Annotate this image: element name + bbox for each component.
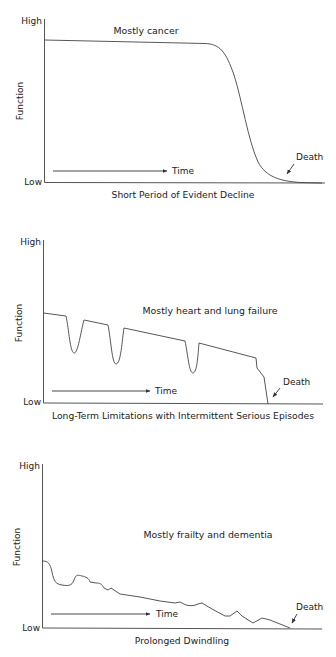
time-label: Time [154, 386, 177, 396]
chart-frailty-dementia: High Low Function Mostly frailty and dem… [12, 461, 323, 646]
death-arrow [287, 164, 294, 174]
y-tick-low: Low [22, 623, 40, 633]
chart-heart-lung: High Low Function Mostly heart and lung … [14, 237, 323, 421]
y-axis-label: Function [15, 82, 25, 120]
death-label: Death [296, 152, 323, 162]
chart-title: Mostly frailty and dementia [143, 529, 272, 540]
time-label: Time [171, 166, 194, 176]
death-arrow [292, 614, 297, 623]
chart-caption: Prolonged Dwindling [135, 635, 229, 646]
axes [45, 19, 326, 183]
chart-title: Mostly cancer [113, 25, 178, 36]
chart-title: Mostly heart and lung failure [142, 305, 277, 316]
time-label: Time [155, 609, 178, 619]
y-tick-low: Low [23, 397, 41, 407]
y-axis-label: Function [12, 528, 22, 566]
axes [43, 464, 323, 629]
y-tick-low: Low [24, 177, 42, 187]
death-label: Death [296, 602, 323, 612]
death-arrow [273, 388, 280, 397]
y-tick-high: High [19, 461, 40, 471]
function-curve [45, 40, 323, 183]
y-tick-high: High [21, 16, 42, 26]
y-axis-label: Function [14, 304, 24, 342]
death-label: Death [283, 377, 310, 387]
chart-cancer: High Low Function Mostly cancer Time Dea… [15, 16, 325, 200]
chart-caption: Long-Term Limitations with Intermittent … [52, 410, 314, 421]
trajectories-figure: High Low Function Mostly cancer Time Dea… [0, 0, 336, 657]
chart-caption: Short Period of Evident Decline [112, 189, 255, 200]
y-tick-high: High [20, 237, 41, 247]
axes [44, 240, 324, 404]
